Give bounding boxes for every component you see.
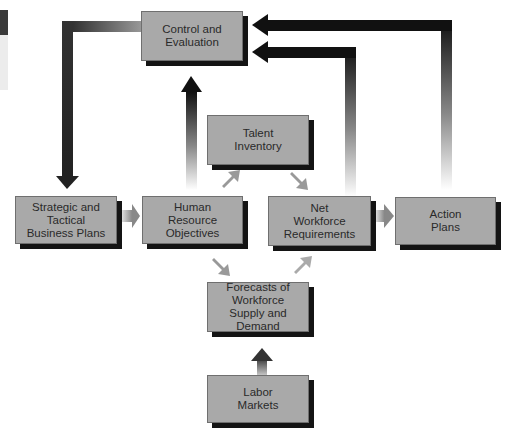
node-forecasts-workforce-supply-demand: Forecasts of Workforce Supply and Demand: [207, 282, 309, 332]
node-label: Net Workforce Requirements: [284, 202, 356, 241]
node-label: Forecasts of Workforce Supply and Demand: [208, 281, 308, 333]
node-label: Action Plans: [430, 208, 462, 234]
node-label: Labor Markets: [238, 386, 279, 412]
node-action-plans: Action Plans: [395, 197, 496, 245]
arrow-talent-to-net: [290, 172, 308, 190]
node-label: Human Resource Objectives: [166, 201, 220, 240]
arrow-hr-to-control: [181, 76, 202, 190]
node-label: Strategic and Tactical Business Plans: [27, 201, 106, 240]
arrow-strategic-to-hr: [122, 204, 140, 228]
node-label: Talent Inventory: [234, 127, 281, 153]
arrow-control-to-strategic: [56, 21, 142, 189]
arrow-forecasts-to-net: [294, 256, 312, 274]
node-strategic-tactical-business-plans: Strategic and Tactical Business Plans: [15, 196, 117, 244]
node-human-resource-objectives: Human Resource Objectives: [142, 196, 243, 244]
arrow-hr-to-forecasts: [212, 258, 230, 276]
node-net-workforce-requirements: Net Workforce Requirements: [268, 196, 371, 246]
node-talent-inventory: Talent Inventory: [207, 115, 309, 165]
node-control-and-evaluation: Control and Evaluation: [141, 11, 243, 61]
node-labor-markets: Labor Markets: [207, 375, 309, 423]
node-label: Control and Evaluation: [162, 23, 221, 49]
arrow-hr-to-talent: [222, 170, 240, 188]
arrow-labor-to-forecasts: [251, 348, 273, 376]
arrow-net-to-action: [376, 204, 394, 228]
